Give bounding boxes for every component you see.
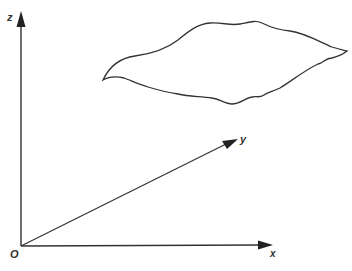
- origin-label: O: [10, 248, 19, 260]
- z-axis: [17, 11, 26, 246]
- z-arrow-icon: [17, 11, 26, 27]
- z-axis-label: z: [6, 11, 13, 23]
- y-axis: [21, 139, 238, 246]
- coordinate-diagram: z y x O: [0, 0, 352, 271]
- x-axis-label: x: [269, 248, 276, 259]
- y-arrow-icon: [222, 139, 238, 149]
- y-axis-label: y: [239, 133, 247, 145]
- x-axis: [21, 241, 273, 250]
- surface-region: [103, 21, 347, 104]
